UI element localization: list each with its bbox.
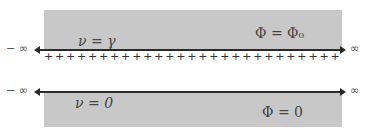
surface-charge-row: +++++++++++++++++++++++++++ [44,51,340,63]
plus-charge-icon: + [253,51,262,63]
plus-charge-icon: + [198,51,207,63]
plus-charge-icon: + [242,51,251,63]
right-arrow-icon [340,88,346,96]
plus-charge-icon: + [154,51,163,63]
plus-charge-icon: + [264,51,273,63]
plus-charge-icon: + [110,51,119,63]
plus-charge-icon: + [77,51,86,63]
lower-phi-label: Φ = 0 [262,104,303,120]
left-arrow-icon [34,46,40,54]
neg-infinity-label-upper: − ∞ [6,42,28,55]
pos-infinity-label-lower: ∞ [350,84,359,97]
plus-charge-icon: + [308,51,317,63]
neg-infinity-label-lower: − ∞ [6,84,28,97]
lower-nu-label: ν = 0 [75,95,113,111]
plus-charge-icon: + [297,51,306,63]
right-arrow-icon [340,46,346,54]
plus-charge-icon: + [55,51,64,63]
plus-charge-icon: + [121,51,130,63]
plus-charge-icon: + [143,51,152,63]
left-arrow-icon [34,88,40,96]
lower-axis-line [40,91,340,93]
plus-charge-icon: + [88,51,97,63]
plus-charge-icon: + [132,51,141,63]
plus-charge-icon: + [165,51,174,63]
plus-charge-icon: + [66,51,75,63]
plus-charge-icon: + [44,51,53,63]
plus-charge-icon: + [209,51,218,63]
plus-charge-icon: + [176,51,185,63]
plus-charge-icon: + [319,51,328,63]
plus-charge-icon: + [231,51,240,63]
upper-phi-label: Φ = Φ₀ [255,25,304,41]
upper-nu-label: ν = γ [78,33,116,49]
plus-charge-icon: + [99,51,108,63]
plus-charge-icon: + [330,51,339,63]
pos-infinity-label-upper: ∞ [350,42,359,55]
plus-charge-icon: + [187,51,196,63]
plus-charge-icon: + [286,51,295,63]
plus-charge-icon: + [220,51,229,63]
plus-charge-icon: + [275,51,284,63]
